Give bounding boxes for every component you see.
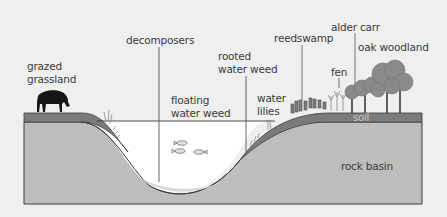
label-rooted-water-weed-line2: water weed — [218, 63, 277, 76]
label-rooted-water-weed-line1: rooted — [218, 50, 251, 63]
label-soil: soil — [353, 111, 369, 124]
label-water-lilies-line1: water — [257, 92, 286, 105]
label-rock-basin: rock basin — [341, 160, 393, 173]
label-alder-carr: alder carr — [331, 21, 380, 34]
label-reedswamp: reedswamp — [274, 32, 333, 45]
label-floating-water-weed-line1: floating — [171, 94, 209, 107]
hydrosere-diagram: grazed grassland decomposers rooted wate… — [0, 0, 447, 217]
reedswamp-plants — [291, 98, 326, 113]
label-oak-woodland: oak woodland — [358, 41, 429, 54]
label-water-lilies-line2: lilies — [257, 105, 279, 118]
label-fen: fen — [331, 66, 347, 79]
cow-icon — [37, 90, 70, 112]
label-floating-water-weed-line2: water weed — [171, 107, 230, 120]
label-decomposers: decomposers — [126, 34, 194, 47]
fen-plants — [328, 91, 346, 111]
label-grazed-grassland-line1: grazed — [27, 60, 62, 73]
label-grazed-grassland-line2: grassland — [27, 73, 76, 86]
